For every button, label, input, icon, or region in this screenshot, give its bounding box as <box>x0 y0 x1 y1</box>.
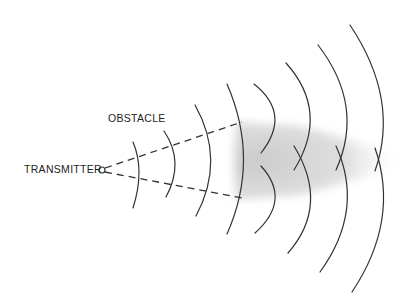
obstacle-shadow <box>234 122 398 200</box>
diffraction-diagram <box>0 0 405 305</box>
wavefront-2 <box>164 131 175 197</box>
wavefront-3 <box>195 105 211 216</box>
obstacle-label: OBSTACLE <box>108 113 166 124</box>
transmitter-label: TRANSMITTER <box>24 164 102 175</box>
ray-upper <box>105 122 242 168</box>
wavefront-1 <box>133 142 139 208</box>
